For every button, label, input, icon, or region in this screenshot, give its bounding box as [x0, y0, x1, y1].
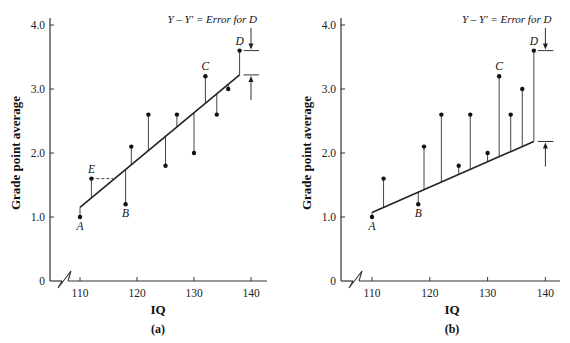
y-tick-label: 2.0: [322, 147, 337, 159]
data-point: [226, 87, 230, 91]
figure: 01.02.03.04.0110120130140IQ(a)Grade poin…: [0, 0, 570, 343]
data-point: [497, 74, 501, 78]
arrow-down-icon: [249, 44, 254, 50]
point-label: A: [367, 220, 376, 232]
data-point: [89, 176, 93, 180]
x-tick-label: 110: [72, 287, 89, 299]
data-point: [175, 112, 179, 116]
error-annotation: Y – Y′ = Error for D: [168, 13, 258, 25]
arrow-up-icon: [249, 76, 254, 82]
data-point: [520, 87, 524, 91]
data-point: [370, 215, 374, 219]
point-label: E: [87, 163, 95, 175]
y-tick-label: 2.0: [31, 147, 46, 159]
axis-break-icon: [349, 271, 362, 288]
data-point: [146, 112, 150, 116]
arrow-down-icon: [543, 44, 548, 50]
x-tick-label: 120: [128, 287, 146, 299]
x-axis-title: IQ: [444, 302, 459, 317]
data-point: [439, 112, 443, 116]
data-point: [422, 144, 426, 148]
regression-line: [80, 75, 240, 207]
data-point: [381, 176, 385, 180]
arrow-up-icon: [543, 142, 548, 148]
data-point: [416, 202, 420, 206]
error-annotation: Y – Y′ = Error for D: [462, 13, 552, 25]
point-label: A: [75, 220, 84, 232]
data-point: [457, 164, 461, 168]
data-point: [509, 112, 513, 116]
y-tick-label: 3.0: [322, 83, 337, 95]
y-tick-label: 1.0: [31, 211, 46, 223]
data-point: [215, 112, 219, 116]
y-tick-label: 0: [39, 275, 45, 287]
point-label: B: [122, 207, 129, 219]
x-tick-label: 130: [185, 287, 203, 299]
x-tick-label: 130: [479, 287, 497, 299]
data-point: [123, 202, 127, 206]
chart-panel-a: 01.02.03.04.0110120130140IQ(a)Grade poin…: [8, 13, 267, 336]
y-axis-title: Grade point average: [8, 96, 23, 210]
y-tick-label: 0: [330, 275, 336, 287]
y-tick-label: 3.0: [31, 83, 46, 95]
data-point: [203, 74, 207, 78]
data-point: [163, 164, 167, 168]
x-tick-label: 120: [421, 287, 439, 299]
chart-panel-b: 01.02.03.04.0110120130140IQ(b)Grade poin…: [299, 13, 560, 336]
x-tick-label: 140: [537, 287, 555, 299]
point-label: C: [495, 60, 503, 72]
axis-break-icon: [58, 271, 71, 288]
point-label: D: [529, 35, 539, 47]
regression-line: [372, 141, 534, 212]
panel-label: (a): [151, 322, 165, 336]
x-tick-label: 110: [364, 287, 381, 299]
x-tick-label: 140: [242, 287, 260, 299]
data-point: [237, 48, 241, 52]
panel-label: (b): [445, 322, 460, 336]
y-tick-label: 4.0: [31, 19, 46, 31]
data-point: [485, 151, 489, 155]
data-point: [78, 215, 82, 219]
data-point: [129, 144, 133, 148]
y-axis-title: Grade point average: [299, 96, 314, 210]
y-tick-label: 4.0: [322, 19, 337, 31]
data-point: [468, 112, 472, 116]
x-axis-title: IQ: [150, 302, 165, 317]
data-point: [192, 151, 196, 155]
data-point: [532, 48, 536, 52]
point-label: B: [415, 207, 422, 219]
y-tick-label: 1.0: [322, 211, 337, 223]
point-label: D: [234, 35, 244, 47]
point-label: C: [202, 60, 210, 72]
